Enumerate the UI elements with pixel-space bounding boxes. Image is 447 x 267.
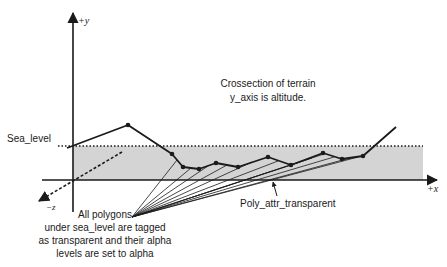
svg-text:as transparent and their alpha: as transparent and their alpha <box>39 235 172 246</box>
sea-level-label: Sea_level <box>7 133 51 144</box>
y-axis-label: +y <box>78 15 90 26</box>
poly-attr-transparent-label: Poly_attr_transparent <box>240 198 336 209</box>
z-axis-label: −z <box>46 202 56 212</box>
polygons-callout-text: All polygons under sea_level are tagged … <box>39 209 172 259</box>
svg-text:under sea_level are tagged: under sea_level are tagged <box>44 222 165 233</box>
poly-attr-pointer-arrow <box>273 182 277 196</box>
diagram-title-line2: y_axis is altitude. <box>230 92 306 103</box>
diagram-title-line1: Crossection of terrain <box>220 78 315 89</box>
terrain-crossection-diagram: +y +x −z Sea_level Crossection of terrai… <box>0 0 447 267</box>
svg-text:levels are set to alpha: levels are set to alpha <box>56 248 154 259</box>
svg-text:All polygons: All polygons <box>78 209 132 220</box>
x-axis-label: +x <box>427 183 439 194</box>
